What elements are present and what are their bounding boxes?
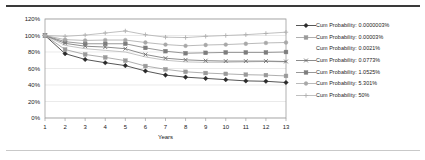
y-axis-tick-label: 20% — [28, 99, 41, 105]
data-point-marker — [164, 43, 168, 47]
legend-item-label: Cum Probability: 50% — [316, 90, 369, 101]
x-axis-tick-label: 12 — [263, 124, 270, 130]
bottom-divider — [6, 150, 420, 151]
legend-item[interactable]: Cum Probability: 0.0000003% — [296, 20, 424, 32]
x-axis-tick-label: 5 — [124, 124, 128, 130]
data-point-marker — [224, 43, 228, 47]
legend-item[interactable]: Cum Probability: 0.0773% — [296, 55, 424, 67]
data-point-marker — [184, 44, 188, 48]
legend-marker-none-icon — [296, 43, 316, 54]
data-point-marker — [284, 41, 288, 45]
x-axis-tick-label: 11 — [243, 124, 250, 130]
data-point-marker — [304, 23, 309, 28]
legend-item-label: Cum Probability: 0.0000003% — [316, 20, 389, 31]
data-point-marker — [204, 71, 208, 75]
data-point-marker — [264, 51, 268, 55]
data-point-marker — [144, 46, 148, 50]
data-point-marker — [83, 39, 87, 43]
y-axis-tick-label: 40% — [28, 82, 41, 88]
legend-item-label: Cum Probability: 5.301% — [316, 78, 377, 89]
data-point-marker — [144, 41, 148, 45]
data-point-marker — [204, 51, 208, 55]
legend-item-label: Cum Probability: 0.0773% — [316, 55, 380, 66]
data-point-marker — [304, 70, 308, 74]
data-point-marker — [184, 51, 188, 55]
top-divider — [6, 5, 420, 7]
legend-marker-plus-icon — [296, 90, 316, 101]
legend-item[interactable]: Cum Probability: 0.0021% — [296, 43, 424, 55]
legend-marker-circle-icon — [296, 78, 316, 89]
data-point-marker — [224, 51, 228, 55]
x-axis-tick-label: 3 — [83, 124, 87, 130]
data-point-marker — [224, 72, 228, 76]
data-point-marker — [304, 35, 308, 39]
x-axis-tick-label: 8 — [184, 124, 188, 130]
legend-marker-x-icon — [296, 55, 316, 66]
legend-item[interactable]: Cum Probability: 5.301% — [296, 78, 424, 90]
data-point-marker — [164, 67, 168, 71]
data-point-marker — [264, 73, 268, 77]
data-point-marker — [63, 48, 67, 52]
x-axis-tick-label: 6 — [144, 124, 148, 130]
data-point-marker — [204, 43, 208, 47]
legend-item-label: Cum Probability: 1.0525% — [316, 67, 380, 78]
legend-item[interactable]: Cum Probability: 1.0525% — [296, 66, 424, 78]
legend-item[interactable]: Cum Probability: 50% — [296, 90, 424, 102]
data-point-marker — [103, 42, 107, 46]
x-axis-title: Years — [158, 134, 173, 140]
data-point-marker — [123, 59, 127, 63]
x-axis-tick-label: 1 — [43, 124, 47, 130]
data-point-marker — [244, 51, 248, 55]
data-point-marker — [244, 73, 248, 77]
legend-marker-square-icon — [296, 32, 316, 43]
data-point-marker — [103, 38, 107, 42]
y-axis-tick-label: 60% — [28, 66, 41, 72]
legend-item[interactable]: Cum Probability: 0.00003% — [296, 32, 424, 44]
x-axis-tick-label: 2 — [63, 124, 67, 130]
legend-item-label: Cum Probability: 0.00003% — [316, 32, 383, 43]
y-axis-tick-label: 0% — [31, 115, 40, 121]
data-point-marker — [264, 41, 268, 45]
data-point-marker — [184, 70, 188, 74]
data-point-marker — [123, 42, 127, 46]
x-axis-tick-label: 4 — [104, 124, 108, 130]
data-point-marker — [103, 55, 107, 59]
x-axis-tick-label: 13 — [283, 124, 290, 130]
data-point-marker — [284, 50, 288, 54]
data-point-marker — [164, 49, 168, 53]
y-axis-tick-label: 120% — [25, 16, 41, 22]
data-point-marker — [123, 38, 127, 42]
y-axis-tick-label: 80% — [28, 49, 41, 55]
data-point-marker — [144, 64, 148, 68]
data-point-marker — [304, 82, 308, 86]
data-point-marker — [284, 74, 288, 78]
x-axis-tick-label: 7 — [164, 124, 168, 130]
legend-marker-diamond-icon — [296, 20, 316, 31]
x-axis-tick-label: 10 — [222, 124, 229, 130]
legend-marker-square-icon — [296, 67, 316, 78]
chart-page: 0%20%40%60%80%100%120%12345678910111213Y… — [0, 0, 425, 160]
x-axis-tick-label: 9 — [204, 124, 208, 130]
data-point-marker — [83, 53, 87, 57]
y-axis-tick-label: 100% — [25, 33, 41, 39]
chart-legend: Cum Probability: 0.0000003% Cum Probabil… — [296, 20, 424, 101]
data-point-marker — [244, 42, 248, 46]
legend-item-label: Cum Probability: 0.0021% — [316, 43, 380, 54]
